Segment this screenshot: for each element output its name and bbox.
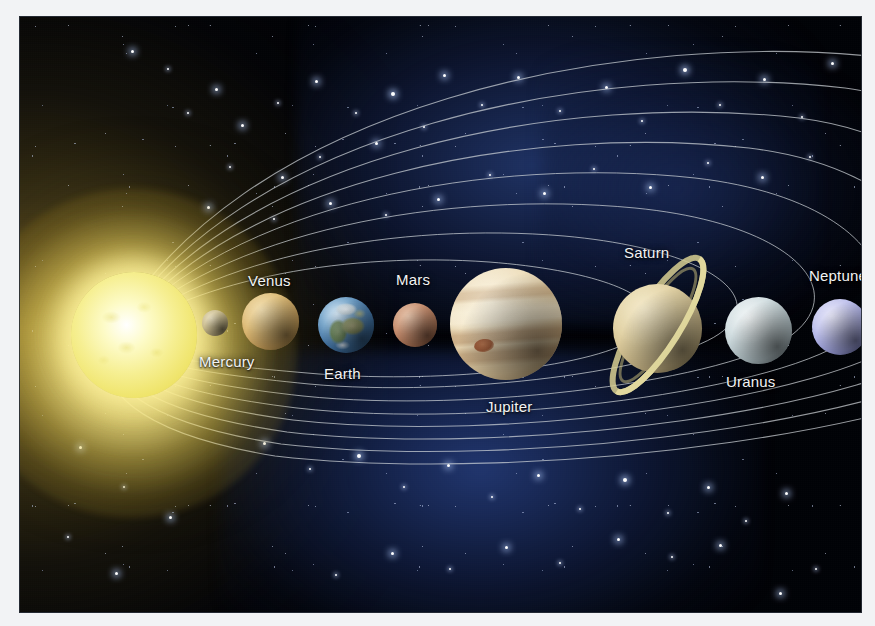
earth-shading — [318, 297, 374, 353]
uranus-shading — [725, 297, 792, 364]
label-uranus: Uranus — [726, 373, 776, 390]
planet-uranus — [725, 297, 792, 364]
label-saturn: Saturn — [624, 244, 669, 261]
planet-mars — [393, 303, 437, 347]
venus-shading — [242, 293, 299, 350]
space-scene: Mercury Venus Earth Mars Jupiter Saturn … — [19, 16, 862, 613]
planet-neptune — [812, 299, 862, 355]
mercury-shading — [202, 310, 228, 336]
label-venus: Venus — [248, 272, 291, 289]
planet-jupiter — [450, 268, 562, 380]
label-neptune: Neptune — [809, 267, 862, 284]
neptune-shading — [812, 299, 862, 355]
saturn-ring-front — [575, 242, 741, 408]
planet-mercury — [202, 310, 228, 336]
framed-solar-system-poster: Mercury Venus Earth Mars Jupiter Saturn … — [0, 0, 875, 626]
label-jupiter: Jupiter — [486, 398, 532, 415]
label-mercury: Mercury — [199, 353, 255, 370]
label-mars: Mars — [396, 271, 430, 288]
label-earth: Earth — [324, 365, 361, 382]
sun-surface-texture — [71, 272, 197, 398]
mars-shading — [393, 303, 437, 347]
sun — [71, 272, 197, 398]
jupiter-shading — [450, 268, 562, 380]
planet-venus — [242, 293, 299, 350]
planet-earth — [318, 297, 374, 353]
